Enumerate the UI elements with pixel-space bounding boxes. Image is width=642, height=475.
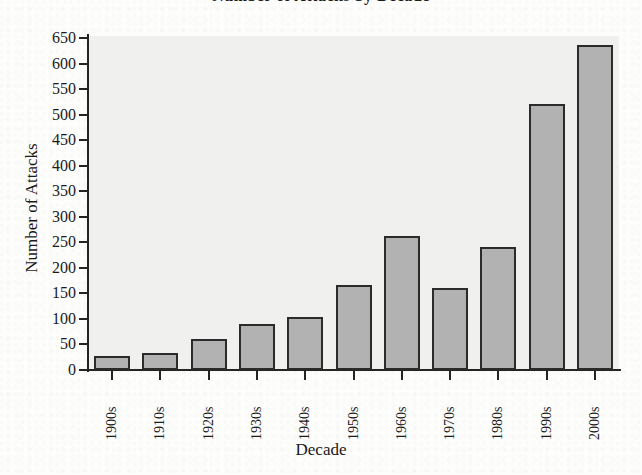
bar <box>191 339 227 370</box>
x-axis-tick-label: 1940s <box>298 384 312 440</box>
y-axis-tick <box>79 369 88 371</box>
y-axis-labels: 050100150200250300350400450500550600650 <box>0 0 76 475</box>
chart-title: Number of Attacks by Decade <box>0 0 642 5</box>
bar <box>432 288 468 370</box>
y-axis-tick <box>79 292 88 294</box>
bar <box>287 317 323 370</box>
y-axis-tick-label: 100 <box>4 311 76 327</box>
x-axis-tick-label: 2000s <box>588 384 602 440</box>
x-axis-tick <box>546 371 548 380</box>
y-axis-tick-label: 250 <box>4 234 76 250</box>
y-axis-tick-label: 150 <box>4 285 76 301</box>
y-axis-tick <box>79 343 88 345</box>
bar <box>577 45 613 370</box>
y-axis-tick-label: 550 <box>4 81 76 97</box>
bar <box>529 104 565 370</box>
y-axis-tick-label: 400 <box>4 158 76 174</box>
x-axis-tick-label: 1990s <box>540 384 554 440</box>
bar <box>480 247 516 370</box>
x-axis-tick <box>304 371 306 380</box>
y-axis-tick-label: 50 <box>4 336 76 352</box>
y-axis-tick <box>79 190 88 192</box>
x-axis-tick-label: 1910s <box>153 384 167 440</box>
y-axis-tick <box>79 139 88 141</box>
x-axis-tick <box>111 371 113 380</box>
x-axis-tick <box>401 371 403 380</box>
bar-chart-figure: Number of Attacks by Decade Number of At… <box>0 0 642 475</box>
y-axis-tick-label: 300 <box>4 209 76 225</box>
y-axis-tick-label: 500 <box>4 107 76 123</box>
x-axis-tick <box>353 371 355 380</box>
x-axis-tick <box>256 371 258 380</box>
x-axis-tick <box>208 371 210 380</box>
y-axis-tick-label: 350 <box>4 183 76 199</box>
x-axis-title: Decade <box>0 440 642 460</box>
bar <box>384 236 420 370</box>
y-axis-tick-label: 650 <box>4 30 76 46</box>
x-axis-tick-label: 1950s <box>347 384 361 440</box>
y-axis-tick <box>79 318 88 320</box>
y-axis-tick <box>79 114 88 116</box>
y-axis-line <box>87 34 89 372</box>
y-axis-tick-label: 600 <box>4 56 76 72</box>
y-axis-tick-label: 450 <box>4 132 76 148</box>
y-axis-tick <box>79 165 88 167</box>
y-axis-tick <box>79 37 88 39</box>
bar <box>94 356 130 370</box>
x-axis-tick-label: 1900s <box>105 384 119 440</box>
bar <box>239 324 275 370</box>
y-axis-tick <box>79 267 88 269</box>
y-axis-tick-label: 0 <box>4 362 76 378</box>
x-axis-tick-label: 1980s <box>491 384 505 440</box>
x-axis-tick <box>159 371 161 380</box>
y-axis-tick <box>79 88 88 90</box>
bar <box>336 285 372 370</box>
x-axis-tick-label: 1920s <box>202 384 216 440</box>
y-axis-tick <box>79 63 88 65</box>
x-axis-tick <box>497 371 499 380</box>
y-axis-tick <box>79 216 88 218</box>
x-axis-tick-label: 1930s <box>250 384 264 440</box>
x-axis-tick <box>594 371 596 380</box>
x-axis-tick <box>449 371 451 380</box>
y-axis-tick-label: 200 <box>4 260 76 276</box>
x-axis-tick-label: 1970s <box>443 384 457 440</box>
x-axis-tick-label: 1960s <box>395 384 409 440</box>
bar <box>142 353 178 370</box>
y-axis-tick <box>79 241 88 243</box>
chart-title-clipped: Number of Attacks by Decade <box>0 0 642 14</box>
